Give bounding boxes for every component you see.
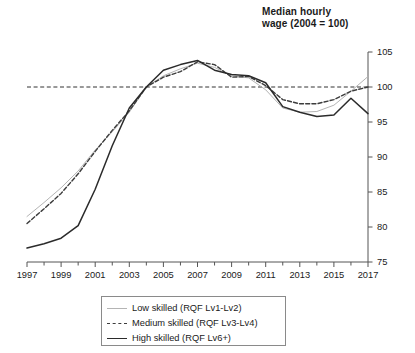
series-line-low-skilled bbox=[27, 63, 368, 216]
legend-label-high-skilled: High skilled (RQF Lv6+) bbox=[132, 333, 231, 343]
x-tick-label: 2005 bbox=[153, 270, 174, 280]
y-tick-label: 75 bbox=[377, 257, 387, 267]
x-tick-label: 1997 bbox=[17, 270, 38, 280]
legend-item-medium-skilled: Medium skilled (RQF Lv3-Lv4) bbox=[107, 315, 280, 330]
y-tick-label: 90 bbox=[377, 152, 387, 162]
series-line-high-skilled bbox=[27, 60, 368, 248]
legend-swatch-high-skilled-icon bbox=[107, 333, 127, 343]
x-tick-label: 2007 bbox=[187, 270, 208, 280]
chart-legend: Low skilled (RQF Lv1-Lv2) Medium skilled… bbox=[101, 296, 286, 346]
y-tick-label: 100 bbox=[377, 82, 393, 92]
legend-item-low-skilled: Low skilled (RQF Lv1-Lv2) bbox=[107, 300, 280, 315]
x-tick-label: 2009 bbox=[221, 270, 242, 280]
x-tick-label: 1999 bbox=[51, 270, 72, 280]
legend-label-low-skilled: Low skilled (RQF Lv1-Lv2) bbox=[132, 303, 242, 313]
y-tick-label: 105 bbox=[377, 47, 393, 57]
legend-swatch-medium-skilled-icon bbox=[107, 318, 127, 328]
y-tick-label: 95 bbox=[377, 117, 387, 127]
x-tick-label: 2013 bbox=[289, 270, 310, 280]
legend-item-high-skilled: High skilled (RQF Lv6+) bbox=[107, 330, 280, 345]
y-tick-label: 80 bbox=[377, 222, 387, 232]
legend-label-medium-skilled: Medium skilled (RQF Lv3-Lv4) bbox=[132, 318, 258, 328]
x-tick-label: 2017 bbox=[358, 270, 379, 280]
chart-container: Median hourly wage (2004 = 100) 19971999… bbox=[0, 0, 415, 353]
series-line-medium-skilled bbox=[27, 62, 368, 224]
y-tick-label: 85 bbox=[377, 187, 387, 197]
x-tick-label: 2015 bbox=[324, 270, 345, 280]
x-tick-label: 2011 bbox=[256, 270, 276, 280]
x-tick-label: 2003 bbox=[119, 270, 140, 280]
legend-swatch-low-skilled-icon bbox=[107, 303, 127, 313]
x-tick-label: 2001 bbox=[85, 270, 106, 280]
